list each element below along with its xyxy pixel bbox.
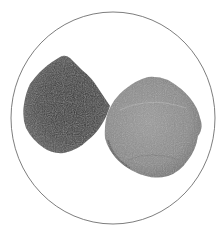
right-seed [105, 77, 202, 178]
seeds-photo [0, 0, 224, 230]
photo-frame [0, 0, 224, 230]
left-seed [23, 56, 110, 153]
